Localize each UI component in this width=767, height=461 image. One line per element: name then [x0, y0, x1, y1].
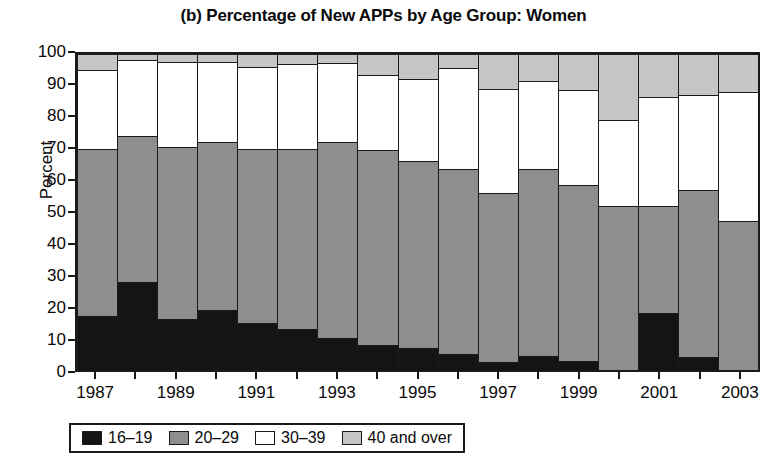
x-tick-mark: [658, 372, 660, 379]
legend-swatch: [169, 431, 189, 445]
y-tick-label: 80: [47, 107, 66, 124]
x-tick-mark: [497, 372, 499, 379]
bar-column: [398, 54, 438, 370]
bar-segment: [77, 149, 117, 316]
y-tick-mark: [68, 371, 75, 373]
legend-item: 40 and over: [342, 429, 453, 447]
x-tick-mark: [255, 372, 257, 379]
bar-segment: [718, 54, 758, 92]
y-tick-label: 60: [47, 171, 66, 188]
x-tick-mark: [537, 372, 539, 379]
y-tick-mark: [68, 83, 75, 85]
bar-segment: [398, 54, 438, 79]
bar-segment: [638, 313, 678, 370]
plot-area: [75, 52, 760, 372]
bar-segment: [478, 54, 518, 89]
bar-segment: [638, 97, 678, 206]
bar-segment: [598, 206, 638, 370]
bar-segment: [197, 54, 237, 62]
x-tick-label: 2003: [705, 383, 767, 403]
bar-segment: [518, 356, 558, 370]
y-tick-mark: [68, 307, 75, 309]
bar-segment: [237, 323, 277, 370]
bar-segment: [157, 62, 197, 147]
x-tick-mark: [699, 372, 701, 379]
bar-segment: [237, 67, 277, 149]
y-tick-label: 100: [38, 43, 66, 60]
x-tick-label: 1999: [544, 383, 614, 403]
legend-label: 40 and over: [368, 429, 453, 447]
bar-segment: [317, 338, 357, 370]
x-tick-mark: [296, 372, 298, 379]
bar-column: [598, 54, 638, 370]
legend-item: 20–29: [169, 429, 240, 447]
legend-item: 30–39: [255, 429, 326, 447]
bar-segment: [398, 79, 438, 161]
bar-segment: [638, 54, 678, 97]
y-tick-label: 0: [57, 363, 66, 380]
x-tick-label: 1987: [60, 383, 130, 403]
bar-segment: [237, 149, 277, 323]
bar-segment: [678, 190, 718, 357]
chart-figure: (b) Percentage of New APPs by Age Group:…: [0, 0, 767, 461]
bar-segment: [357, 150, 397, 344]
bar-segment: [678, 95, 718, 190]
y-tick-mark: [68, 115, 75, 117]
bar-segment: [438, 169, 478, 354]
legend-item: 16–19: [82, 429, 153, 447]
bar-segment: [518, 169, 558, 355]
x-tick-mark: [175, 372, 177, 379]
bar-segment: [438, 354, 478, 370]
bar-column: [518, 54, 558, 370]
x-tick-label: 1993: [302, 383, 372, 403]
y-tick-mark: [68, 243, 75, 245]
bar-segment: [398, 348, 438, 370]
y-tick-mark: [68, 147, 75, 149]
bar-segment: [678, 357, 718, 370]
legend-label: 16–19: [108, 429, 153, 447]
bar-segment: [718, 221, 758, 370]
bar-segment: [357, 54, 397, 75]
bar-segment: [518, 81, 558, 169]
bar-segment: [117, 136, 157, 281]
bar-segment: [518, 54, 558, 81]
bar-column: [237, 54, 277, 370]
y-tick-label: 50: [47, 203, 66, 220]
bar-segment: [157, 54, 197, 62]
bars-layer: [77, 54, 758, 370]
y-tick-label: 40: [47, 235, 66, 252]
bar-column: [558, 54, 598, 370]
y-tick-label: 20: [47, 299, 66, 316]
bar-segment: [438, 54, 478, 68]
bar-column: [357, 54, 397, 370]
bar-column: [638, 54, 678, 370]
bar-segment: [638, 206, 678, 313]
bar-column: [77, 54, 117, 370]
bar-segment: [277, 64, 317, 149]
bar-segment: [237, 54, 277, 67]
y-tick-label: 30: [47, 267, 66, 284]
bar-segment: [478, 89, 518, 193]
bar-segment: [438, 68, 478, 169]
bar-segment: [598, 120, 638, 205]
legend-swatch: [255, 431, 275, 445]
bar-segment: [718, 92, 758, 222]
x-tick-mark: [134, 372, 136, 379]
bar-segment: [117, 60, 157, 136]
y-tick-mark: [68, 211, 75, 213]
bar-segment: [357, 75, 397, 151]
bar-segment: [157, 319, 197, 370]
x-tick-mark: [336, 372, 338, 379]
x-tick-mark: [457, 372, 459, 379]
chart-title: (b) Percentage of New APPs by Age Group:…: [0, 6, 767, 26]
bar-segment: [197, 142, 237, 309]
bar-segment: [558, 185, 598, 360]
x-tick-label: 2001: [624, 383, 694, 403]
y-tick-label: 90: [47, 75, 66, 92]
x-tick-mark: [215, 372, 217, 379]
bar-column: [317, 54, 357, 370]
bar-column: [718, 54, 758, 370]
x-tick-mark: [578, 372, 580, 379]
y-tick-mark: [68, 339, 75, 341]
bar-segment: [277, 329, 317, 370]
